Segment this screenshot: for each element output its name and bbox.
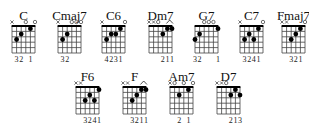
finger-dot <box>177 93 182 98</box>
finger-number: 1 <box>144 116 148 125</box>
open-string-icon <box>261 20 264 23</box>
chord-chart: C321 Cmaj732 C64231 Dm7211 G7321 C73241 … <box>0 0 309 129</box>
finger-dot <box>216 26 221 31</box>
finger-dot <box>170 26 175 31</box>
chord-diagram-fmaj7: Fmaj7321 <box>274 0 309 64</box>
finger-dot <box>104 37 109 42</box>
chord-diagram-am7: Am721 <box>162 61 201 125</box>
finger-dot <box>130 98 135 103</box>
muted-string-icon <box>121 81 124 84</box>
muted-string-icon <box>126 81 129 84</box>
finger-dot <box>247 32 252 37</box>
finger-number: 1 <box>186 116 190 125</box>
finger-dot <box>118 26 123 31</box>
finger-number: 3 <box>83 116 87 125</box>
finger-number: 3 <box>130 116 134 125</box>
chord-diagram-c6: C64231 <box>94 0 133 64</box>
finger-dot <box>113 32 118 37</box>
finger-number: 2 <box>177 116 181 125</box>
barre-icon <box>140 81 147 85</box>
finger-number: 3 <box>15 55 19 64</box>
open-string-icon <box>33 20 36 23</box>
finger-dot <box>28 26 33 31</box>
finger-dot <box>228 93 233 98</box>
finger-dot <box>139 87 144 92</box>
finger-dot <box>97 87 102 92</box>
finger-dot <box>289 37 294 42</box>
finger-number: 2 <box>109 55 113 64</box>
finger-dot <box>65 32 70 37</box>
chord-name: Am7 <box>169 69 196 84</box>
chord-name: F <box>131 69 138 84</box>
muted-string-icon <box>215 81 218 84</box>
finger-dot <box>233 87 238 92</box>
finger-number: 2 <box>19 55 23 64</box>
finger-number: 4 <box>92 116 96 125</box>
finger-number: 3 <box>289 55 293 64</box>
finger-number: 2 <box>135 116 139 125</box>
chord-name: C6 <box>106 8 122 23</box>
finger-dot <box>298 26 303 31</box>
chord-diagram-c: C321 <box>4 0 43 64</box>
finger-dot <box>193 37 198 42</box>
finger-dot <box>256 26 261 31</box>
finger-number: 1 <box>97 116 101 125</box>
finger-number: 1 <box>28 55 32 64</box>
finger-dot <box>134 93 139 98</box>
finger-dot <box>92 98 97 103</box>
finger-number: 1 <box>233 116 237 125</box>
chord-diagram-dm7: Dm7211 <box>141 0 180 64</box>
finger-number: 2 <box>294 55 298 64</box>
finger-dot <box>87 93 92 98</box>
finger-number: 1 <box>139 116 143 125</box>
chord-name: C7 <box>244 8 260 23</box>
chord-diagram-d7: D7213 <box>209 61 248 125</box>
finger-number: 2 <box>229 116 233 125</box>
muted-string-icon <box>238 20 241 23</box>
muted-string-icon <box>10 20 13 23</box>
finger-dot <box>83 98 88 103</box>
chord-diagram-c7: C73241 <box>232 0 271 64</box>
finger-dot <box>165 26 170 31</box>
finger-dot <box>14 37 19 42</box>
chord-name: F6 <box>81 69 95 84</box>
finger-dot <box>238 93 243 98</box>
chord-diagram-cmaj7: Cmaj732 <box>50 0 89 64</box>
finger-dot <box>109 32 114 37</box>
finger-dot <box>251 37 256 42</box>
finger-number: 1 <box>298 55 302 64</box>
finger-dot <box>186 87 191 92</box>
chord-diagram-f6: F63241 <box>68 61 107 125</box>
finger-number: 4 <box>252 55 256 64</box>
finger-dot <box>160 32 165 37</box>
chord-diagram-f: F3211 <box>115 61 154 125</box>
finger-number: 1 <box>256 55 260 64</box>
finger-dot <box>242 37 247 42</box>
finger-dot <box>293 32 298 37</box>
finger-dot <box>197 32 202 37</box>
finger-number: 3 <box>61 55 65 64</box>
fretboard-grid <box>195 26 219 53</box>
finger-number: 3 <box>238 116 242 125</box>
finger-number: 2 <box>88 116 92 125</box>
finger-dot <box>19 32 24 37</box>
muted-string-icon <box>74 81 77 84</box>
finger-dot <box>144 87 149 92</box>
muted-string-icon <box>100 20 103 23</box>
chord-diagram-g7: G7321 <box>187 0 226 64</box>
open-string-icon <box>123 20 126 23</box>
finger-dot <box>60 37 65 42</box>
